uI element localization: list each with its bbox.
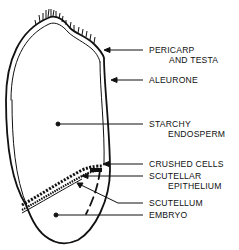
epithelium-arrow-icon <box>82 174 88 179</box>
label-embryo: EMBRYO <box>149 210 187 220</box>
embryo-dot-icon <box>54 213 58 217</box>
aleurone-arrow-icon <box>111 78 117 83</box>
label-scutellar-epithelium: SCUTELLAR EPITHELIUM <box>149 171 222 191</box>
scutellum-leader <box>79 184 143 203</box>
aleurone-line <box>11 23 104 165</box>
pericarp-arrow-icon <box>104 48 110 53</box>
grain-cross-section-diagram: PERICARP AND TESTA ALEURONE STARCHY ENDO… <box>0 0 239 250</box>
endosperm-dot-icon <box>56 122 60 126</box>
label-aleurone: ALEURONE <box>149 75 198 85</box>
label-starchy-endosperm: STARCHY ENDOSPERM <box>149 119 225 139</box>
label-pericarp: PERICARP AND TESTA <box>149 45 218 65</box>
label-crushed-cells: CRUSHED CELLS <box>149 159 224 169</box>
label-scutellum: SCUTELLUM <box>149 198 203 208</box>
